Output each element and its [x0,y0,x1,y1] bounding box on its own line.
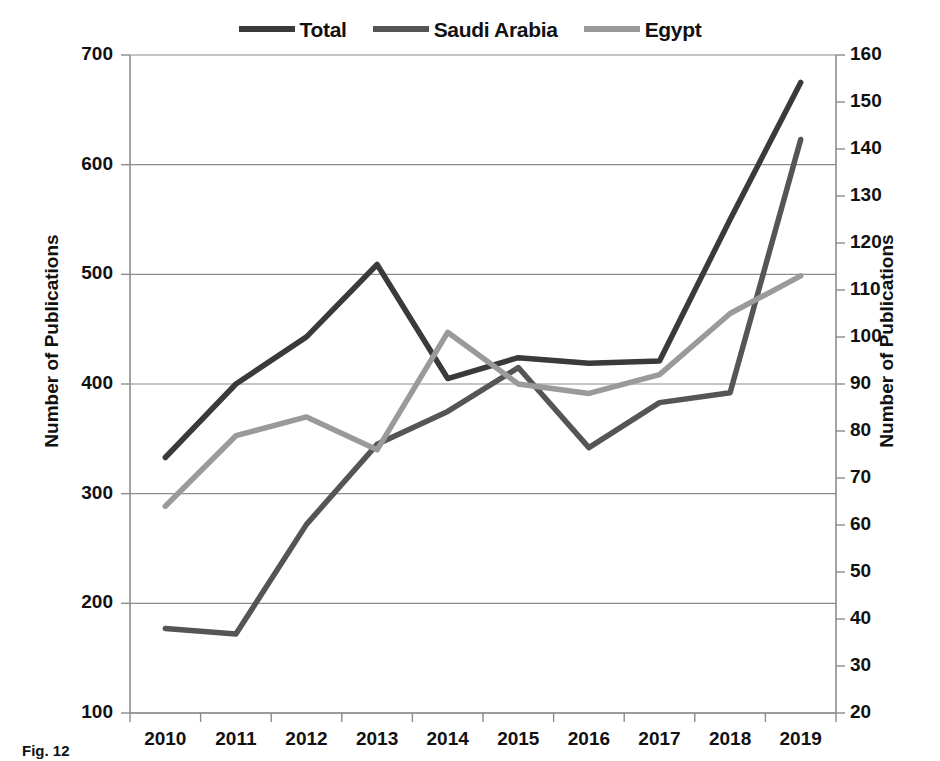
y-axis-right-tick-label: 60 [850,514,910,533]
y-axis-right-tick-label: 120 [850,232,910,251]
figure-caption: Fig. 12 [22,742,70,759]
y-axis-right-tick-label: 160 [850,44,910,63]
y-axis-right-tick-label: 70 [850,467,910,486]
y-axis-right-tick-label: 140 [850,138,910,157]
y-axis-right-tick-label: 130 [850,185,910,204]
y-axis-left-tick-label: 400 [43,373,113,392]
y-axis-right-tick-label: 100 [850,326,910,345]
y-axis-right-tick-label: 150 [850,91,910,110]
x-axis-tick-label: 2015 [478,729,558,748]
plot-area [0,0,940,761]
y-axis-left-tick-label: 600 [43,154,113,173]
y-axis-right-tick-label: 90 [850,373,910,392]
y-axis-right-tick-label: 40 [850,608,910,627]
y-axis-left-tick-label: 300 [43,483,113,502]
x-axis-tick-label: 2019 [761,729,841,748]
y-axis-right-tick-label: 110 [850,279,910,298]
x-axis-tick-label: 2017 [620,729,700,748]
x-axis-tick-label: 2012 [267,729,347,748]
series-line-total [165,82,800,457]
x-axis-tick-label: 2016 [549,729,629,748]
publications-line-chart: Total Saudi Arabia Egypt Number of Publi… [0,0,940,761]
y-axis-left-tick-label: 700 [43,44,113,63]
y-axis-right-tick-label: 20 [850,702,910,721]
y-axis-left-tick-label: 100 [43,702,113,721]
y-axis-right-tick-label: 80 [850,420,910,439]
y-axis-left-tick-label: 500 [43,263,113,282]
x-axis-tick-label: 2018 [690,729,770,748]
x-axis-tick-label: 2014 [408,729,488,748]
series-line-saudi-arabia [165,139,800,634]
x-axis-tick-label: 2011 [196,729,276,748]
y-axis-right-tick-label: 30 [850,655,910,674]
x-axis-tick-label: 2013 [337,729,417,748]
x-axis-tick-label: 2010 [125,729,205,748]
y-axis-left-tick-label: 200 [43,592,113,611]
y-axis-right-tick-label: 50 [850,561,910,580]
